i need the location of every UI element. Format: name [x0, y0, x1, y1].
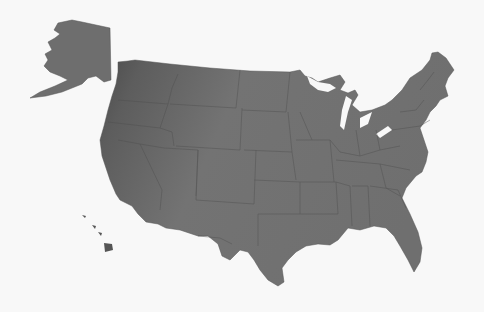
contiguous-us	[100, 52, 454, 286]
alaska	[30, 20, 111, 98]
us-map	[0, 0, 484, 312]
map-container	[0, 0, 484, 312]
hawaii	[82, 215, 113, 252]
